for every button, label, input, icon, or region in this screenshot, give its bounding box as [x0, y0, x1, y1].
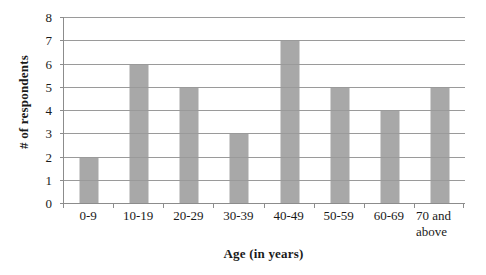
x-axis-tick-label: 30-39 — [213, 208, 263, 224]
y-axis-tick-mark — [60, 64, 64, 65]
bar[interactable] — [230, 133, 249, 203]
y-axis-tick-label: 4 — [46, 104, 53, 117]
y-axis-tick-labels: 012345678 — [36, 17, 58, 203]
y-axis-tick-label: 3 — [46, 127, 53, 140]
bar[interactable] — [180, 87, 199, 203]
y-axis-tick-mark — [60, 133, 64, 134]
y-axis-tick-label: 2 — [46, 150, 53, 163]
y-axis-tick-label: 7 — [46, 34, 53, 47]
bar[interactable] — [430, 87, 449, 203]
gridline — [64, 64, 465, 65]
y-axis-tick-mark — [60, 40, 64, 41]
y-axis-tick-mark — [60, 87, 64, 88]
y-axis-tick-mark — [60, 157, 64, 158]
y-axis-tick-mark — [60, 17, 64, 18]
plot-area — [63, 17, 465, 203]
gridline — [64, 17, 465, 18]
y-axis-tick-label: 8 — [46, 11, 53, 24]
y-axis-tick-label: 5 — [46, 80, 53, 93]
x-axis-tick-label: 10-19 — [113, 208, 163, 224]
x-axis-tick-label: 40-49 — [264, 208, 314, 224]
y-axis-title: # of respondents — [12, 0, 36, 203]
x-axis-tick-label-line: above — [416, 224, 480, 240]
bar-chart: # of respondents 012345678 0-910-1920-29… — [0, 0, 486, 275]
x-axis-tick-label: 50-59 — [314, 208, 364, 224]
x-axis-tick-label: 60-69 — [364, 208, 414, 224]
gridline — [64, 180, 465, 181]
gridline — [64, 110, 465, 111]
y-axis-tick-mark — [60, 110, 64, 111]
y-axis-tick-label: 1 — [46, 173, 53, 186]
y-axis-tick-label: 0 — [46, 197, 53, 210]
x-axis-tick-labels: 0-910-1920-2930-3940-4950-5960-6970 anda… — [63, 208, 478, 248]
x-axis-tick-label: 20-29 — [163, 208, 213, 224]
gridline — [64, 133, 465, 134]
x-axis-tick-label-line: 70 and — [416, 208, 480, 224]
bar[interactable] — [280, 40, 299, 203]
gridline — [64, 157, 465, 158]
y-axis-title-text: # of respondents — [16, 55, 32, 149]
y-axis-tick-label: 6 — [46, 57, 53, 70]
bar[interactable] — [330, 87, 349, 203]
gridline — [64, 40, 465, 41]
y-axis-tick-mark — [60, 180, 64, 181]
x-axis-title: Age (in years) — [63, 246, 464, 262]
x-axis-tick-label: 70 andabove — [416, 208, 480, 240]
x-axis-tick-label: 0-9 — [63, 208, 113, 224]
gridline — [64, 87, 465, 88]
